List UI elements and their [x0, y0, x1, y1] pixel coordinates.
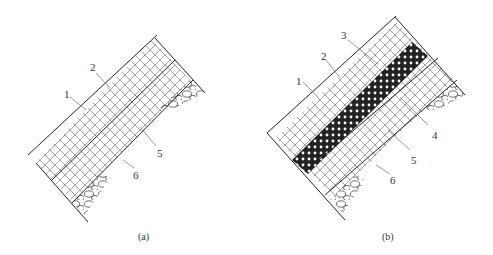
interface-line — [52, 60, 175, 180]
label-6: 6 — [133, 169, 139, 181]
label-5: 5 — [157, 147, 163, 159]
leader-6 — [123, 160, 134, 168]
panel-a: 1 2 5 6 (a) — [28, 35, 205, 243]
label-2: 2 — [321, 50, 327, 62]
label-1: 1 — [296, 75, 302, 87]
leader-1 — [303, 82, 318, 97]
label-3: 3 — [341, 29, 347, 41]
cross-section-figure: 1 2 5 6 (a) 1 2 3 4 5 6 (b) — [0, 0, 493, 255]
label-6: 6 — [390, 174, 396, 186]
leader-5 — [140, 127, 156, 146]
label-4: 4 — [432, 129, 438, 141]
label-2: 2 — [90, 61, 96, 73]
panel-b: 1 2 3 4 5 6 (b) — [267, 16, 465, 243]
label-5: 5 — [411, 154, 417, 166]
leader-6 — [376, 165, 390, 174]
label-1: 1 — [64, 88, 70, 100]
caption-a: (a) — [138, 231, 149, 243]
caption-b: (b) — [382, 231, 394, 243]
